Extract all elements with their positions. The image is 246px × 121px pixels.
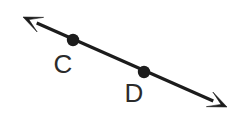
geometry-figure: C D — [0, 0, 246, 121]
point-dot-c — [67, 34, 79, 46]
point-label-c: C — [54, 49, 73, 79]
point-label-d: D — [125, 78, 144, 108]
line-diagram-canvas: C D — [0, 0, 246, 121]
point-dot-d — [138, 66, 150, 78]
